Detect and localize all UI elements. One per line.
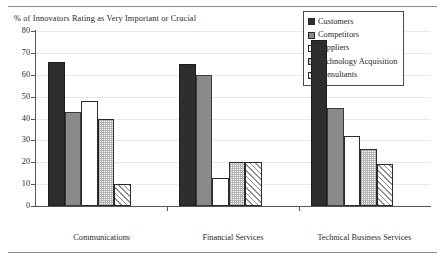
bar-financial-services-consultants (245, 162, 262, 206)
x-axis-tick (167, 206, 168, 211)
y-axis-tick-label: 20 (4, 157, 30, 166)
chart-title: % of Innovators Rating as Very Important… (14, 14, 196, 23)
y-axis-tick (31, 119, 36, 120)
y-axis-tick (31, 162, 36, 163)
y-axis-tick-label: 40 (4, 114, 30, 123)
bar-technical-business-services-suppliers (344, 136, 361, 206)
bottom-rule (8, 252, 437, 253)
bar-technical-business-services-competitors (327, 108, 344, 206)
bar-communications-suppliers (81, 101, 98, 206)
x-axis-label-communications: Communications (36, 233, 167, 242)
y-axis-tick (31, 31, 36, 32)
legend-item-customers[interactable]: Customers (308, 15, 397, 28)
legend-label: Competitors (318, 31, 359, 39)
bar-financial-services-customers (179, 64, 196, 206)
bar-communications-technology-acquisition (98, 119, 115, 207)
bar-technical-business-services-customers (311, 40, 328, 206)
y-axis-labels: 01020304050607080 (0, 0, 30, 261)
bar-financial-services-suppliers (212, 178, 229, 206)
bar-communications-customers (48, 62, 65, 206)
legend-label: Customers (318, 18, 354, 26)
figure: % of Innovators Rating as Very Important… (0, 0, 445, 261)
y-axis-tick-label: 60 (4, 70, 30, 79)
bar-communications-consultants (114, 184, 131, 206)
y-axis-tick-label: 80 (4, 26, 30, 35)
legend-swatch-customers-icon (308, 18, 315, 25)
y-axis-tick-label: 10 (4, 179, 30, 188)
legend-swatch-competitors-icon (308, 32, 315, 39)
top-rule (8, 6, 437, 7)
legend-label: Technology Acquisition (318, 58, 397, 66)
y-axis-tick (31, 97, 36, 98)
bar-technical-business-services-technology-acquisition (360, 149, 377, 206)
y-axis-tick (31, 140, 36, 141)
y-axis-tick-label: 30 (4, 135, 30, 144)
bar-technical-business-services-consultants (377, 164, 394, 206)
y-axis-tick (31, 53, 36, 54)
y-axis-tick (31, 184, 36, 185)
y-axis-tick-label: 70 (4, 48, 30, 57)
y-axis-tick (31, 206, 36, 207)
x-axis-label-financial-services: Financial Services (167, 233, 298, 242)
x-axis-tick (299, 206, 300, 211)
bar-financial-services-technology-acquisition (229, 162, 246, 206)
y-axis-tick-label: 50 (4, 92, 30, 101)
bar-financial-services-competitors (196, 75, 213, 206)
x-axis-label-technical-business-services: Technical Business Services (299, 233, 430, 242)
bar-communications-competitors (65, 112, 82, 206)
y-axis-tick-label: 0 (4, 201, 30, 210)
x-axis-line (35, 206, 431, 207)
y-axis-tick (31, 75, 36, 76)
